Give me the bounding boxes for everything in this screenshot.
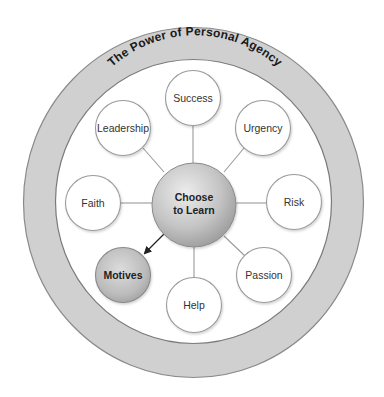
node-leadership: Leadership — [96, 101, 151, 156]
node-label-leadership: Leadership — [97, 122, 149, 134]
node-passion: Passion — [237, 248, 292, 303]
node-label-motives: Motives — [103, 269, 142, 281]
node-label-success: Success — [173, 92, 213, 104]
node-risk: Risk — [267, 175, 322, 230]
center-label-line1: Choose — [175, 191, 214, 203]
node-label-passion: Passion — [245, 269, 283, 281]
node-success: Success — [166, 71, 221, 126]
node-help: Help — [167, 278, 222, 333]
node-urgency: Urgency — [236, 101, 291, 156]
node-label-help: Help — [183, 299, 205, 311]
personal-agency-diagram: The Power of Personal Agency Choose to L… — [0, 0, 384, 397]
node-faith: Faith — [66, 176, 121, 231]
node-label-faith: Faith — [81, 197, 105, 209]
node-label-risk: Risk — [284, 196, 305, 208]
node-motives: Motives — [96, 248, 151, 303]
node-label-urgency: Urgency — [243, 122, 283, 134]
center-label-line2: to Learn — [173, 204, 214, 216]
